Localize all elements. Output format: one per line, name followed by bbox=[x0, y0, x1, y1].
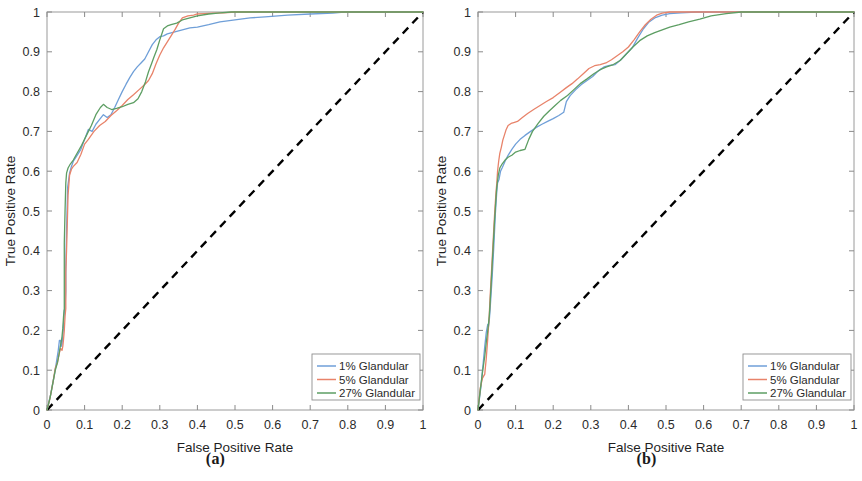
x-tick-label: 1 bbox=[851, 418, 858, 432]
x-tick-label: 0.3 bbox=[151, 418, 168, 432]
x-tick-label: 0.5 bbox=[657, 418, 674, 432]
legend-label-3: 27% Glandular bbox=[770, 387, 846, 399]
panel-b-caption: (b) bbox=[431, 450, 862, 468]
roc-figure: 00.10.20.30.40.50.60.70.80.9100.10.20.30… bbox=[0, 0, 862, 481]
legend-label-1: 1% Glandular bbox=[339, 360, 409, 372]
x-tick-label: 0.3 bbox=[582, 418, 599, 432]
x-tick-label: 0.1 bbox=[76, 418, 93, 432]
roc-plot-a: 00.10.20.30.40.50.60.70.80.9100.10.20.30… bbox=[0, 0, 431, 481]
y-tick-label: 1 bbox=[464, 6, 471, 20]
y-tick-label: 0.4 bbox=[454, 244, 471, 258]
y-tick-label: 0.8 bbox=[23, 85, 40, 99]
y-tick-label: 0.2 bbox=[23, 324, 40, 338]
y-tick-label: 1 bbox=[33, 6, 40, 20]
legend-label-1: 1% Glandular bbox=[770, 360, 840, 372]
x-tick-label: 0.2 bbox=[114, 418, 131, 432]
y-tick-label: 0.9 bbox=[23, 45, 40, 59]
x-tick-label: 0 bbox=[475, 418, 482, 432]
x-tick-label: 0.7 bbox=[302, 418, 319, 432]
roc-panel-b: 00.10.20.30.40.50.60.70.80.9100.10.20.30… bbox=[431, 0, 862, 481]
x-tick-label: 0.4 bbox=[620, 418, 637, 432]
y-tick-label: 0.2 bbox=[454, 324, 471, 338]
x-tick-label: 0.8 bbox=[770, 418, 787, 432]
y-tick-label: 0.7 bbox=[454, 125, 471, 139]
x-tick-label: 0.2 bbox=[545, 418, 562, 432]
y-tick-label: 0.5 bbox=[23, 205, 40, 219]
y-axis-title: True Positive Rate bbox=[3, 156, 18, 267]
x-tick-label: 0.8 bbox=[339, 418, 356, 432]
x-tick-label: 0.4 bbox=[189, 418, 206, 432]
y-tick-label: 0.6 bbox=[454, 165, 471, 179]
x-tick-label: 0 bbox=[44, 418, 51, 432]
roc-plot-b: 00.10.20.30.40.50.60.70.80.9100.10.20.30… bbox=[431, 0, 862, 481]
legend-label-2: 5% Glandular bbox=[770, 374, 840, 386]
legend-label-3: 27% Glandular bbox=[339, 387, 415, 399]
y-tick-label: 0.9 bbox=[454, 45, 471, 59]
y-tick-label: 0.3 bbox=[23, 284, 40, 298]
y-tick-label: 0 bbox=[33, 404, 40, 418]
y-tick-label: 0.6 bbox=[23, 165, 40, 179]
y-tick-label: 0.4 bbox=[23, 244, 40, 258]
x-tick-label: 0.1 bbox=[507, 418, 524, 432]
x-tick-label: 0.5 bbox=[226, 418, 243, 432]
x-tick-label: 0.7 bbox=[733, 418, 750, 432]
x-tick-label: 0.9 bbox=[377, 418, 394, 432]
y-tick-label: 0.5 bbox=[454, 205, 471, 219]
y-axis-title: True Positive Rate bbox=[434, 156, 449, 267]
y-tick-label: 0.7 bbox=[23, 125, 40, 139]
x-tick-label: 0.6 bbox=[695, 418, 712, 432]
y-tick-label: 0.3 bbox=[454, 284, 471, 298]
x-tick-label: 1 bbox=[420, 418, 427, 432]
x-tick-label: 0.6 bbox=[264, 418, 281, 432]
y-tick-label: 0 bbox=[464, 404, 471, 418]
y-tick-label: 0.1 bbox=[454, 364, 471, 378]
roc-panel-a: 00.10.20.30.40.50.60.70.80.9100.10.20.30… bbox=[0, 0, 431, 481]
panel-a-caption: (a) bbox=[0, 450, 431, 468]
y-tick-label: 0.8 bbox=[454, 85, 471, 99]
y-tick-label: 0.1 bbox=[23, 364, 40, 378]
legend-label-2: 5% Glandular bbox=[339, 374, 409, 386]
x-tick-label: 0.9 bbox=[808, 418, 825, 432]
